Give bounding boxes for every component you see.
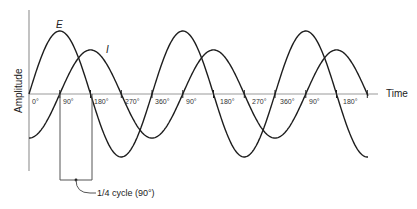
tick-label: 360° (155, 98, 170, 105)
tick-label: 270° (252, 98, 267, 105)
phase-diagram: 0° 90° 180° 270° 360° 90° 180° 270° 360°… (0, 0, 417, 209)
y-axis-label: Amplitude (13, 68, 24, 113)
tick-label: 180° (343, 98, 358, 105)
curve-label-e: E (56, 19, 63, 30)
tick-label: 360° (280, 98, 295, 105)
tick-label: 90° (63, 98, 74, 105)
tick-label: 180° (220, 98, 235, 105)
curve-label-i: I (106, 44, 109, 55)
tick-label: 0° (32, 98, 39, 105)
tick-label: 270° (125, 98, 140, 105)
x-axis-tick-labels: 0° 90° 180° 270° 360° 90° 180° 270° 360°… (32, 98, 358, 105)
quarter-cycle-bracket (60, 94, 96, 193)
tick-label: 180° (94, 98, 109, 105)
x-axis-label: Time (386, 88, 408, 99)
leader-line (76, 180, 96, 193)
tick-label: 90° (186, 98, 197, 105)
tick-label: 90° (309, 98, 320, 105)
quarter-cycle-annotation: 1/4 cycle (90°) (97, 188, 155, 198)
